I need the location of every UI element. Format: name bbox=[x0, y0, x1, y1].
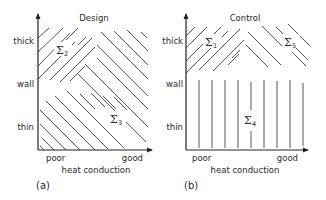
svg-text:Σ: Σ bbox=[110, 113, 118, 126]
svg-text:1: 1 bbox=[213, 42, 217, 50]
panel-b-x-label: heat conduction bbox=[211, 165, 280, 175]
region-label-sigma-4: Σ 4 bbox=[244, 114, 256, 128]
region-label-sigma-1: Σ 1 bbox=[203, 34, 219, 50]
panel-a-x-tick-poor: poor bbox=[46, 153, 66, 163]
panel-b-y-tick-thin: thin bbox=[167, 122, 183, 132]
panel-a-caption: (a) bbox=[36, 180, 50, 191]
panel-b-x-tick-good: good bbox=[277, 153, 298, 163]
svg-text:Σ: Σ bbox=[284, 36, 292, 49]
svg-text:3: 3 bbox=[118, 119, 122, 127]
panel-a-title: Design bbox=[79, 13, 108, 23]
svg-text:5: 5 bbox=[292, 42, 296, 50]
svg-text:Σ: Σ bbox=[205, 36, 213, 49]
panel-a-x-label: heat conduction bbox=[62, 165, 131, 175]
region-label-sigma-3: Σ 3 bbox=[108, 111, 126, 127]
svg-text:2: 2 bbox=[64, 50, 68, 58]
region-label-sigma-5: Σ 5 bbox=[282, 34, 300, 50]
panel-a: Design bbox=[13, 13, 152, 191]
panel-a-y-tick-wall: wall bbox=[17, 79, 34, 89]
panel-b-x-tick-poor: poor bbox=[192, 153, 212, 163]
region-sigma-5-hatch bbox=[246, 24, 310, 67]
panel-a-y-tick-thick: thick bbox=[13, 36, 34, 46]
svg-text:Σ: Σ bbox=[244, 114, 252, 127]
panel-b-title: Control bbox=[230, 13, 261, 23]
region-label-sigma-2: Σ 2 bbox=[54, 42, 72, 58]
panel-b-y-tick-thick: thick bbox=[162, 36, 183, 46]
panel-b: Control bbox=[162, 13, 310, 191]
panel-b-y-tick-wall: wall bbox=[166, 79, 183, 89]
panel-a-y-tick-thin: thin bbox=[18, 122, 34, 132]
figure: Design bbox=[0, 0, 326, 200]
panel-a-x-tick-good: good bbox=[122, 153, 143, 163]
panel-b-caption: (b) bbox=[184, 180, 198, 191]
svg-text:Σ: Σ bbox=[56, 44, 64, 57]
region-sigma-1-hatch bbox=[186, 27, 244, 73]
svg-text:4: 4 bbox=[252, 120, 256, 128]
